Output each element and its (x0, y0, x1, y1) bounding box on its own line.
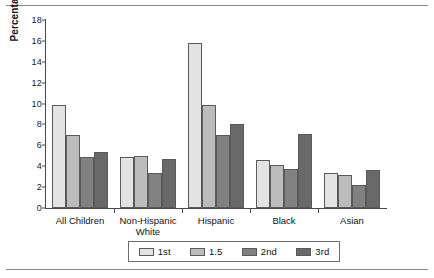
chart-figure: Percentage 024681012141618 All ChildrenN… (0, 0, 434, 278)
x-axis-category-label: Non-Hispanic White (114, 215, 182, 237)
bar (216, 135, 230, 208)
legend-swatch-icon (190, 248, 205, 256)
legend-item[interactable]: 2nd (242, 246, 277, 257)
legend-item[interactable]: 1.5 (190, 246, 223, 257)
y-axis-label-container: Percentage (14, 14, 28, 204)
x-axis-group-separator (114, 208, 115, 213)
bar (230, 124, 244, 208)
bar-group (114, 20, 182, 208)
bar-group-bars (318, 20, 386, 208)
bar (298, 134, 312, 208)
x-axis-group-separator (250, 208, 251, 213)
legend-swatch-icon (242, 248, 257, 256)
x-axis-category-label: Asian (318, 215, 386, 226)
bar (256, 160, 270, 208)
legend-item[interactable]: 3rd (296, 246, 329, 257)
bar (188, 43, 202, 208)
bar (148, 173, 162, 208)
bar-group (318, 20, 386, 208)
legend-item[interactable]: 1st (139, 246, 171, 257)
legend-label: 1st (158, 246, 171, 257)
bar (52, 105, 66, 208)
y-axis-tick-label: 10 (32, 99, 42, 108)
bar (66, 135, 80, 208)
x-axis-line (45, 208, 387, 209)
legend-label: 3rd (315, 246, 329, 257)
y-axis-tick-label: 18 (32, 16, 42, 25)
bar-group-bars (182, 20, 250, 208)
bar (366, 170, 380, 208)
x-axis-category-label: Hispanic (182, 215, 250, 226)
bar-group-bars (46, 20, 114, 208)
bar (324, 173, 338, 208)
y-axis-tick-label: 12 (32, 78, 42, 87)
bar (80, 157, 94, 208)
y-axis-tick-label: 16 (32, 36, 42, 45)
bar-group (182, 20, 250, 208)
legend-swatch-icon (296, 248, 311, 256)
bar (94, 152, 108, 208)
top-divider-rule (6, 5, 428, 6)
bottom-divider-rule (6, 269, 428, 270)
bar (270, 165, 284, 208)
bar-group-bars (250, 20, 318, 208)
legend-label: 1.5 (209, 246, 223, 257)
plot-area: 024681012141618 (46, 20, 386, 208)
bar-group (46, 20, 114, 208)
x-axis-category-label: Black (250, 215, 318, 226)
bar (202, 105, 216, 208)
bar (134, 156, 148, 208)
x-axis-group-separator (182, 208, 183, 213)
legend-label: 2nd (261, 246, 277, 257)
x-axis-group-separator (318, 208, 319, 213)
bar-group (250, 20, 318, 208)
bar (284, 169, 298, 208)
chart-legend: 1st1.52nd3rd (128, 241, 340, 262)
bar (352, 185, 366, 208)
x-axis-category-label: All Children (46, 215, 114, 226)
bar-group-bars (114, 20, 182, 208)
y-axis-label: Percentage (9, 0, 20, 74)
bar (162, 159, 176, 208)
bar (120, 157, 134, 208)
bar (338, 175, 352, 208)
legend-swatch-icon (139, 248, 154, 256)
y-axis-tick-label: 14 (32, 57, 42, 66)
